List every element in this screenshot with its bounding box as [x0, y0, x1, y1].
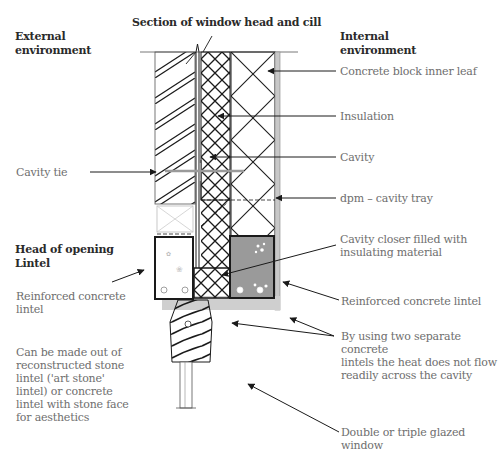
- window-frame: [170, 300, 212, 408]
- label-line: lintel with stone face: [16, 398, 129, 411]
- label-cavity-tie: Cavity tie: [16, 166, 67, 179]
- label-rc-lintel-right: Reinforced concrete lintel: [341, 295, 481, 308]
- heading-line: environment: [340, 44, 416, 58]
- heading-line: External: [15, 30, 91, 44]
- label-line: reconstructed stone: [16, 359, 129, 372]
- label-line: Cavity closer filled with: [340, 233, 467, 246]
- diagram-title: Section of window head and cill: [132, 16, 321, 30]
- label-concrete-block: Concrete block inner leaf: [340, 65, 477, 78]
- label-dpm-cavity-tray: dpm – cavity tray: [340, 192, 433, 205]
- cavity-closer: [194, 268, 230, 298]
- label-line: lintel: [16, 303, 125, 316]
- label-cavity-closer: Cavity closer filled with insulating mat…: [340, 233, 467, 259]
- heading-head-of-opening: Head of opening Lintel: [15, 243, 114, 271]
- heading-external-environment: External environment: [15, 30, 91, 58]
- label-line: Reinforced concrete: [16, 290, 125, 303]
- heading-internal-environment: Internal environment: [340, 30, 416, 58]
- label-glazed-window: Double or triple glazed window: [341, 426, 502, 452]
- label-line: for aesthetics: [16, 411, 129, 424]
- label-line: insulating material: [340, 246, 467, 259]
- outer-brick-leaf: [155, 52, 195, 232]
- label-insulation: Insulation: [340, 110, 394, 123]
- label-line: Can be made out of: [16, 346, 129, 359]
- heading-line: Head of opening: [15, 243, 114, 257]
- label-line: lintel) or concrete: [16, 385, 129, 398]
- heading-line: Internal: [340, 30, 416, 44]
- label-two-lintels: By using two separate concrete lintels t…: [341, 330, 502, 382]
- label-art-stone: Can be made out of reconstructed stone l…: [16, 346, 129, 424]
- label-line: lintels the heat does not flow: [341, 356, 502, 369]
- label-cavity: Cavity: [340, 151, 374, 164]
- outer-lintel: ✿ ❀: [155, 237, 193, 299]
- label-line: lintel ('art stone': [16, 372, 129, 385]
- label-rc-lintel-left: Reinforced concrete lintel: [16, 290, 125, 316]
- svg-text:✿: ✿: [166, 250, 171, 257]
- heading-line: Lintel: [15, 257, 114, 271]
- svg-text:❀: ❀: [176, 265, 183, 274]
- label-line: readily across the cavity: [341, 369, 502, 382]
- heading-line: environment: [15, 44, 91, 58]
- label-line: By using two separate concrete: [341, 330, 502, 356]
